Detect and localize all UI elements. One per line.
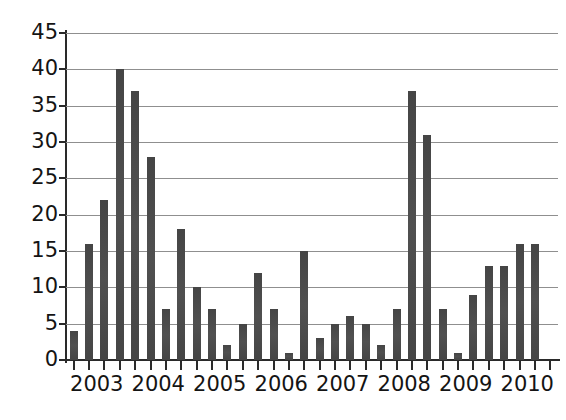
- y-tick: [59, 68, 66, 70]
- bar: [239, 324, 247, 360]
- y-tick-label: 30: [12, 131, 58, 152]
- bar: [70, 331, 78, 360]
- y-tick: [59, 141, 66, 143]
- x-tick: [88, 361, 90, 370]
- y-tick-label: 25: [12, 167, 58, 188]
- x-tick: [426, 361, 428, 370]
- bar: [408, 91, 416, 360]
- y-tick: [59, 323, 66, 325]
- y-tick-label: 15: [12, 240, 58, 261]
- bar: [531, 244, 539, 360]
- bar: [393, 309, 401, 360]
- bar: [362, 324, 370, 360]
- bar: [500, 266, 508, 360]
- x-tick: [442, 361, 444, 370]
- bar: [331, 324, 339, 360]
- x-tick: [488, 361, 490, 370]
- gridline: [66, 33, 558, 34]
- x-tick: [103, 361, 105, 370]
- x-tick: [180, 361, 182, 370]
- gridline: [66, 178, 558, 179]
- bar: [469, 295, 477, 360]
- y-tick-label: 10: [12, 276, 58, 297]
- x-tick-label: 2009: [436, 374, 496, 395]
- x-tick-label: 2010: [497, 374, 557, 395]
- bar: [223, 345, 231, 360]
- x-tick-label: 2007: [313, 374, 373, 395]
- x-tick: [242, 361, 244, 370]
- x-tick: [119, 361, 121, 370]
- gridline: [66, 215, 558, 216]
- x-tick: [380, 361, 382, 370]
- x-tick: [257, 361, 259, 370]
- x-tick: [503, 361, 505, 370]
- bar: [516, 244, 524, 360]
- x-tick: [549, 361, 551, 370]
- bar: [439, 309, 447, 360]
- gridline: [66, 69, 558, 70]
- bar: [100, 200, 108, 360]
- y-tick-label: 20: [12, 204, 58, 225]
- plot-area: [66, 33, 558, 360]
- y-tick: [59, 105, 66, 107]
- y-tick: [59, 32, 66, 34]
- bar: [116, 69, 124, 360]
- bar: [285, 353, 293, 360]
- gridline: [66, 106, 558, 107]
- x-tick: [273, 361, 275, 370]
- x-tick: [334, 361, 336, 370]
- y-tick-label: 45: [12, 22, 58, 43]
- bar: [270, 309, 278, 360]
- y-tick: [59, 286, 66, 288]
- bar: [177, 229, 185, 360]
- gridline: [66, 142, 558, 143]
- bar: [423, 135, 431, 360]
- bar: [454, 353, 462, 360]
- bar: [316, 338, 324, 360]
- bar: [485, 266, 493, 360]
- x-tick-label: 2003: [67, 374, 127, 395]
- y-tick: [59, 250, 66, 252]
- bar: [300, 251, 308, 360]
- bar: [85, 244, 93, 360]
- x-tick: [196, 361, 198, 370]
- bar-chart: 051015202530354045 200320042005200620072…: [0, 0, 566, 420]
- x-tick: [303, 361, 305, 370]
- y-tick: [59, 359, 66, 361]
- bar: [346, 316, 354, 360]
- x-tick: [534, 361, 536, 370]
- x-tick: [226, 361, 228, 370]
- bar: [254, 273, 262, 360]
- bar: [193, 287, 201, 360]
- gridline: [66, 251, 558, 252]
- bar: [208, 309, 216, 360]
- bar: [377, 345, 385, 360]
- x-tick-label: 2004: [128, 374, 188, 395]
- x-tick: [134, 361, 136, 370]
- x-tick: [349, 361, 351, 370]
- x-tick: [73, 361, 75, 370]
- x-tick: [472, 361, 474, 370]
- x-tick: [365, 361, 367, 370]
- y-tick-label: 0: [12, 349, 58, 370]
- y-tick: [59, 177, 66, 179]
- y-tick: [59, 214, 66, 216]
- x-tick: [411, 361, 413, 370]
- x-tick: [519, 361, 521, 370]
- x-tick: [165, 361, 167, 370]
- x-tick: [457, 361, 459, 370]
- x-tick: [319, 361, 321, 370]
- bar: [162, 309, 170, 360]
- x-tick: [396, 361, 398, 370]
- x-tick-label: 2008: [374, 374, 434, 395]
- bar: [147, 157, 155, 360]
- x-tick-label: 2006: [251, 374, 311, 395]
- bar: [131, 91, 139, 360]
- y-tick-label: 5: [12, 313, 58, 334]
- x-tick: [288, 361, 290, 370]
- y-tick-label: 40: [12, 58, 58, 79]
- y-tick-label: 35: [12, 95, 58, 116]
- x-tick-label: 2005: [190, 374, 250, 395]
- x-tick: [211, 361, 213, 370]
- x-tick: [150, 361, 152, 370]
